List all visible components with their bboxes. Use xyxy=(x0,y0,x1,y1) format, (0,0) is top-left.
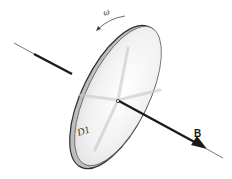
disk xyxy=(51,12,179,179)
rotating-disk-diagram: ω B D1 xyxy=(0,0,232,179)
axle-back xyxy=(14,43,72,74)
omega-label: ω xyxy=(101,6,110,18)
b-field-label: B xyxy=(194,128,201,139)
rotation-arrow xyxy=(96,16,125,31)
